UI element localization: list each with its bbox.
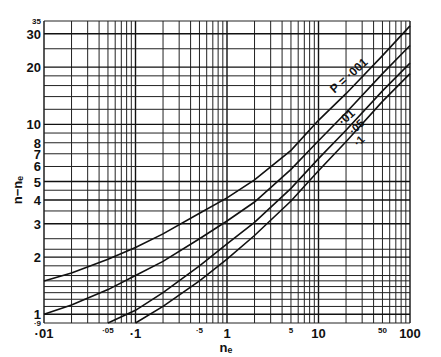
y-tick-label: 4 <box>34 193 42 208</box>
x-tick-labels: ·01·05·1·5151050100 <box>35 326 421 341</box>
x-tick-label: ·01 <box>35 326 54 341</box>
x-tick-label: 50 <box>378 326 387 335</box>
x-tick-label: 1 <box>223 326 230 341</box>
y-tick-label: 2 <box>34 250 41 265</box>
y-tick-label: 30 <box>27 27 41 42</box>
series-line-3 <box>108 63 410 323</box>
y-tick-label: 5 <box>34 175 41 190</box>
y-tick-label: 3 <box>34 217 41 232</box>
x-tick-label: ·5 <box>196 326 204 335</box>
y-tick-labels: ·91234567810203035 <box>27 17 42 328</box>
x-tick-label: ·1 <box>130 326 142 341</box>
y-tick-label: 1 <box>34 307 41 322</box>
curve-labels: P = ·001·01·05·1 <box>327 55 370 149</box>
y-axis-label: n−nₑ <box>10 176 25 204</box>
y-tick-label: 20 <box>27 60 41 75</box>
y-tick-label: 35 <box>32 17 41 26</box>
y-tick-label: 8 <box>34 136 41 151</box>
y-tick-label: 10 <box>27 117 41 132</box>
x-axis-label: nₑ <box>220 340 233 355</box>
x-tick-label: 5 <box>289 326 294 335</box>
x-tick-label: ·05 <box>102 326 114 335</box>
x-tick-label: 10 <box>311 326 325 341</box>
x-tick-label: 100 <box>399 326 421 341</box>
series-line-4 <box>136 74 411 323</box>
chart: P = ·001·01·05·1 ·01·05·1·5151050100 ·91… <box>0 0 441 357</box>
